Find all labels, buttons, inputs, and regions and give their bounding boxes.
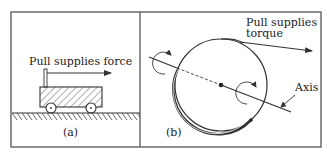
ground-hatch-stroke [72, 113, 77, 120]
ground-hatch-stroke [32, 113, 37, 120]
ground-hatch-stroke [17, 113, 22, 120]
figure: Pull supplies force (a) Pull supplies to… [0, 0, 327, 155]
axis-label-pointer [281, 95, 295, 107]
axis-label: Axis [294, 81, 319, 94]
ground-hatch-stroke [132, 113, 137, 120]
ground-hatch-stroke [107, 113, 112, 120]
ground-hatch-stroke [127, 113, 132, 120]
ground-hatch-stroke [77, 113, 82, 120]
caption-a: (a) [63, 126, 78, 139]
axis-center-dot [219, 83, 224, 88]
ground-hatch-stroke [142, 113, 147, 120]
ground-hatch-stroke [87, 113, 92, 120]
caption-b: (b) [166, 126, 182, 139]
ground-hatch-stroke [57, 113, 62, 120]
force-label: Pull supplies force [29, 55, 132, 68]
rotation-arrow-front [236, 82, 256, 104]
ground-hatch-stroke [47, 113, 52, 120]
ground-hatch-stroke [52, 113, 57, 120]
ground-hatch-stroke [92, 113, 97, 120]
ground-hatch-stroke [27, 113, 32, 120]
ground-hatch-stroke [102, 113, 107, 120]
ground-hatch-stroke [97, 113, 102, 120]
cart-handle [44, 69, 47, 87]
panel-b: Pull supplies torque Axis (b) [149, 16, 319, 139]
ground-hatch-stroke [112, 113, 117, 120]
axis-line-front [221, 85, 291, 112]
axis-line-hidden [177, 68, 221, 85]
ground-hatch-stroke [37, 113, 42, 120]
ground-hatching [12, 113, 147, 120]
torque-label-line2: torque [246, 27, 283, 40]
rim-dot [249, 118, 253, 122]
ground-hatch-stroke [12, 113, 17, 120]
panel-a: Pull supplies force (a) [12, 55, 147, 139]
rotation-arrow-back [153, 52, 171, 74]
ground-hatch-stroke [117, 113, 122, 120]
ground-hatch-stroke [22, 113, 27, 120]
disk-rim-thick [173, 70, 251, 134]
ground-hatch-stroke [67, 113, 72, 120]
ground-hatch-stroke [42, 113, 47, 120]
ground-hatch-stroke [82, 113, 87, 120]
ground-hatch-stroke [122, 113, 127, 120]
ground-hatch-stroke [62, 113, 67, 120]
